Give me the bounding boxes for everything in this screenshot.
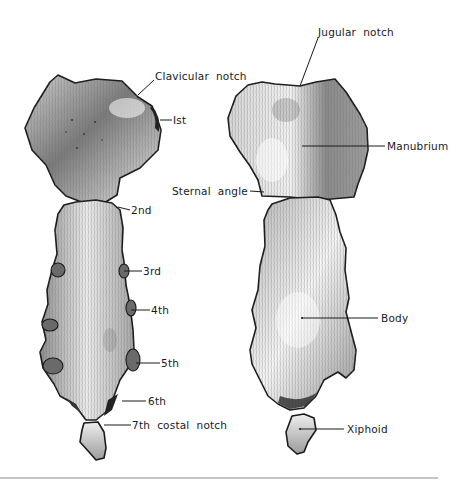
left-manubrium: [25, 75, 161, 203]
leader-clavicular-notch: [138, 80, 154, 95]
label-1st-costal-notch: Ist: [173, 114, 186, 126]
left-xiphoid: [80, 422, 106, 460]
label-2nd-costal-notch: 2nd: [131, 204, 152, 216]
label-3rd-costal-notch: 3rd: [143, 265, 161, 277]
label-xiphoid: Xiphoid: [347, 423, 388, 435]
label-7th-costal-notch: 7th costal notch: [132, 419, 227, 431]
left-side-notch-4: [42, 319, 58, 331]
label-clavicular-notch: Clavicular notch: [155, 70, 247, 82]
fourth-costal-notch: [126, 300, 136, 316]
left-side-notch-3: [51, 263, 65, 277]
right-body: [250, 197, 356, 410]
fifth-costal-notch: [126, 349, 140, 371]
label-5th-costal-notch: 5th: [161, 357, 179, 369]
sternum-illustration: Clavicular notch Ist 2nd 3rd 4th 5th 6th…: [0, 0, 467, 483]
right-manubrium: [228, 79, 368, 200]
left-body: [40, 200, 140, 420]
label-body: Body: [381, 312, 408, 324]
right-sternum: [228, 79, 368, 454]
label-4th-costal-notch: 4th: [151, 304, 169, 316]
label-jugular-notch: Jugular notch: [317, 26, 394, 38]
left-side-notch-5: [43, 358, 63, 374]
leader-jugular-notch: [300, 38, 318, 86]
label-manubrium: Manubrium: [387, 140, 448, 152]
label-sternal-angle: Sternal angle: [172, 185, 248, 197]
right-xiphoid: [286, 414, 316, 454]
label-6th-costal-notch: 6th: [148, 395, 166, 407]
left-sternum: [25, 75, 161, 460]
